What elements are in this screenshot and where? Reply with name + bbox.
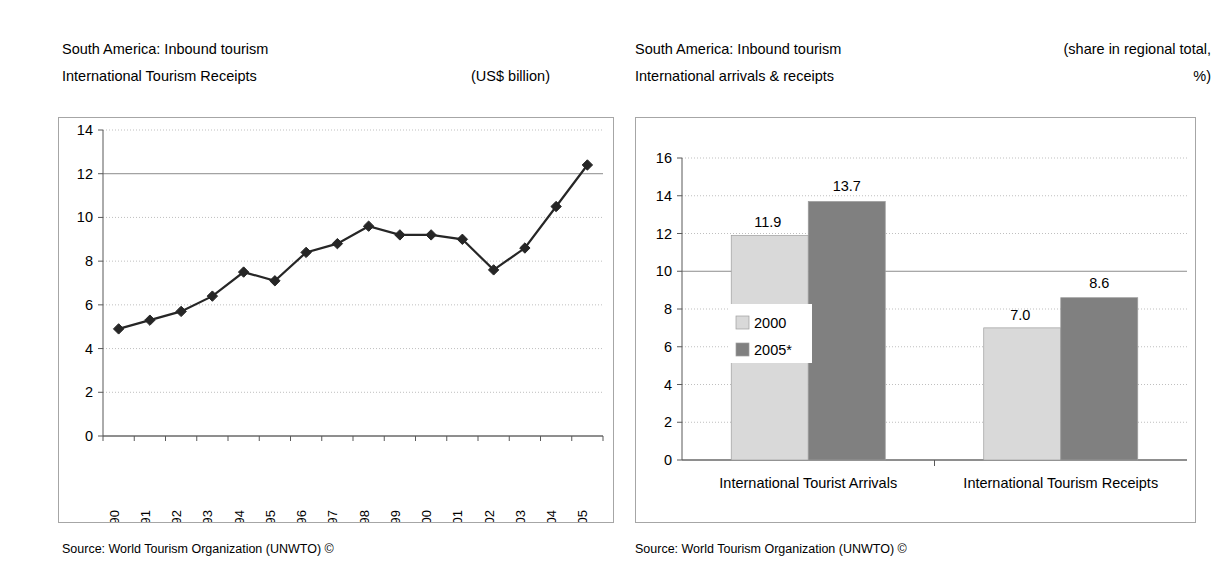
y-axis-tick-label: 14: [656, 188, 672, 204]
bar-value-label: 8.6: [1089, 275, 1109, 291]
x-axis-category-label: International Tourism Receipts: [963, 475, 1158, 491]
y-axis-tick-label: 12: [77, 166, 93, 182]
x-axis-year-label: 2000: [419, 510, 434, 522]
bar-chart: 024681012141611.913.7International Touri…: [636, 118, 1195, 522]
x-axis-year-label: 1992: [169, 510, 184, 522]
x-axis-year-label: 1995: [263, 510, 278, 522]
y-axis-tick-label: 4: [85, 341, 93, 357]
data-point-marker: [145, 315, 155, 325]
x-axis-year-label: 1994: [232, 510, 247, 522]
right-chart-units-line2: %): [635, 63, 1211, 90]
y-axis-tick-label: 0: [664, 452, 672, 468]
data-point-marker: [395, 230, 405, 240]
left-chart-units: (US$ billion): [62, 63, 550, 90]
y-axis-tick-label: 10: [656, 263, 672, 279]
y-axis-tick-label: 16: [656, 150, 672, 166]
y-axis-tick-label: 4: [664, 377, 672, 393]
line-chart-frame: 0246810121419901991199219931994199519961…: [58, 117, 614, 523]
left-chart-panel: South America: Inbound tourism Internati…: [0, 0, 620, 581]
x-axis-year-label: 1991: [138, 510, 153, 522]
data-point-marker: [363, 221, 373, 231]
y-axis-tick-label: 2: [664, 414, 672, 430]
right-chart-panel: South America: Inbound tourism Internati…: [620, 0, 1231, 581]
y-axis-tick-label: 6: [85, 297, 93, 313]
y-axis-tick-label: 0: [85, 428, 93, 444]
x-axis-year-label: 1997: [325, 510, 340, 522]
data-line: [119, 165, 588, 329]
y-axis-tick-label: 14: [77, 122, 93, 138]
x-axis-year-label: 1998: [357, 510, 372, 522]
y-axis-tick-label: 8: [664, 301, 672, 317]
y-axis-tick-label: 2: [85, 384, 93, 400]
right-source-note: Source: World Tourism Organization (UNWT…: [635, 542, 907, 556]
bar-value-label: 13.7: [833, 178, 861, 194]
data-point-marker: [332, 238, 342, 248]
left-source-note: Source: World Tourism Organization (UNWT…: [62, 542, 334, 556]
x-axis-year-label: 1999: [388, 510, 403, 522]
bar-chart-frame: 024681012141611.913.7International Touri…: [635, 117, 1196, 523]
data-point-marker: [176, 306, 186, 316]
bar: [984, 328, 1061, 460]
x-axis-year-label: 2002: [482, 510, 497, 522]
legend-label-2005star: 2005*: [754, 342, 792, 358]
legend-swatch-2005star: [736, 343, 749, 356]
bar-value-label: 7.0: [1010, 307, 1030, 323]
x-axis-year-label: 2004: [544, 510, 559, 522]
x-axis-year-label: 2005: [575, 510, 590, 522]
data-point-marker: [426, 230, 436, 240]
data-point-marker: [113, 324, 123, 334]
right-chart-units-line1: (share in regional total,: [635, 36, 1211, 63]
x-axis-year-label: 2001: [450, 510, 465, 522]
y-axis-tick-label: 6: [664, 339, 672, 355]
bar: [808, 201, 885, 460]
x-axis-year-label: 1990: [107, 510, 122, 522]
y-axis-tick-label: 8: [85, 253, 93, 269]
legend-swatch-2000: [736, 316, 749, 329]
y-axis-tick-label: 10: [77, 209, 93, 225]
y-axis-tick-label: 12: [656, 226, 672, 242]
legend-label-2000: 2000: [754, 315, 786, 331]
left-chart-title-line1: South America: Inbound tourism: [62, 36, 268, 63]
x-axis-category-label: International Tourist Arrivals: [719, 475, 897, 491]
line-chart: 0246810121419901991199219931994199519961…: [59, 118, 613, 522]
x-axis-year-label: 1993: [200, 510, 215, 522]
bar: [1061, 298, 1138, 460]
bar-value-label: 11.9: [754, 214, 781, 230]
x-axis-year-label: 1996: [294, 510, 309, 522]
x-axis-year-label: 2003: [513, 510, 528, 522]
